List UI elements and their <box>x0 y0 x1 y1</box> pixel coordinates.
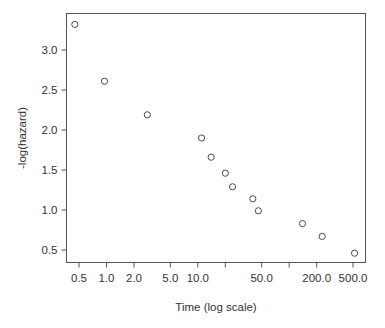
y-tick-label: 1.0 <box>42 204 58 216</box>
scatter-plot-figure: 0.51.01.52.02.53.0 0.51.02.05.010.050.02… <box>0 0 385 328</box>
y-tick-label: 2.5 <box>42 84 58 96</box>
y-tick-label: 1.5 <box>42 164 58 176</box>
chart-canvas: 0.51.01.52.02.53.0 0.51.02.05.010.050.02… <box>0 0 385 328</box>
x-axis-title: Time (log scale) <box>175 301 257 313</box>
y-tick-label: 0.5 <box>42 244 58 256</box>
y-axis-title: -log(hazard) <box>16 107 28 169</box>
y-tick-label: 3.0 <box>42 44 58 56</box>
x-tick-label: 500.0 <box>339 272 368 284</box>
x-tick-label: 200.0 <box>302 272 331 284</box>
x-tick-label: 2.0 <box>126 272 142 284</box>
x-tick-label: 10.0 <box>187 272 209 284</box>
x-tick-label: 0.5 <box>71 272 87 284</box>
x-tick-label: 50.0 <box>250 272 272 284</box>
x-tick-label: 5.0 <box>162 272 178 284</box>
y-tick-label: 2.0 <box>42 124 58 136</box>
x-tick-label: 1.0 <box>98 272 114 284</box>
